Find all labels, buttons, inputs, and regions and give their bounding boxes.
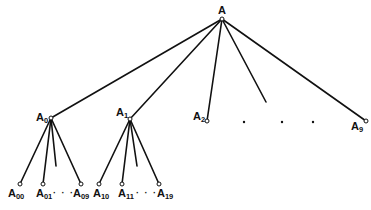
- edge-root-a9: [222, 19, 366, 121]
- node-a10: [97, 182, 101, 186]
- root-edges: [51, 19, 366, 121]
- edge-a0-a09: [51, 118, 81, 184]
- ellipsis-dot: [243, 121, 245, 123]
- node-a01: [41, 182, 45, 186]
- node-a2: [205, 119, 209, 123]
- ellipsis-a0-children: · · ·: [53, 188, 75, 198]
- label-a00: A00: [8, 187, 24, 201]
- label-root: A: [218, 4, 226, 16]
- node-a1: [128, 117, 132, 121]
- node-a9: [364, 119, 368, 123]
- edge-root-a1: [130, 19, 222, 119]
- ellipsis-a1-children: · · ·: [136, 188, 158, 198]
- node-a00: [18, 182, 22, 186]
- node-root: [220, 17, 224, 21]
- label-a2: A2: [193, 110, 205, 124]
- level1-ellipsis: [243, 121, 314, 123]
- tree-diagram: A A0 A1 A2 A9 A00 A01 · · · A09 A10 A11 …: [0, 0, 371, 210]
- label-a1: A1: [116, 106, 128, 120]
- edge-root-a2: [207, 19, 222, 121]
- edge-root-partial: [222, 19, 266, 102]
- label-a11: A11: [118, 187, 134, 201]
- label-a09: A09: [73, 187, 89, 201]
- label-a0: A0: [36, 111, 48, 125]
- node-a0: [49, 116, 53, 120]
- node-a11: [120, 182, 124, 186]
- labels: A A0 A1 A2 A9 A00 A01 · · · A09 A10 A11 …: [8, 4, 363, 201]
- ellipsis-dot: [281, 121, 283, 123]
- a0-edges: [20, 118, 81, 184]
- label-a01: A01: [36, 187, 52, 201]
- node-a09: [79, 182, 83, 186]
- edge-root-a0: [51, 19, 222, 118]
- ellipsis-dot: [312, 121, 314, 123]
- label-a10: A10: [93, 187, 109, 201]
- a1-edges: [99, 119, 159, 184]
- node-a19: [157, 182, 161, 186]
- label-a9: A9: [351, 120, 363, 134]
- label-a19: A19: [157, 187, 173, 201]
